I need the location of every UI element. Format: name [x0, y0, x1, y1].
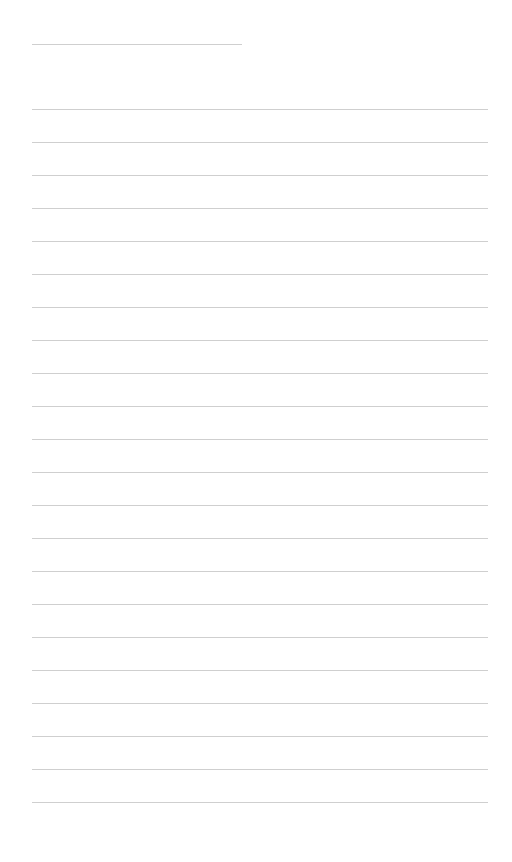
lined-sheet	[0, 0, 512, 862]
ruled-line	[32, 736, 488, 737]
ruled-line	[32, 571, 488, 572]
ruled-line	[32, 769, 488, 770]
ruled-line	[32, 241, 488, 242]
title-line	[32, 44, 242, 45]
ruled-line	[32, 175, 488, 176]
ruled-line	[32, 439, 488, 440]
ruled-line	[32, 538, 488, 539]
ruled-line	[32, 307, 488, 308]
ruled-line	[32, 406, 488, 407]
ruled-line	[32, 142, 488, 143]
ruled-line	[32, 109, 488, 110]
ruled-line	[32, 472, 488, 473]
ruled-line	[32, 373, 488, 374]
ruled-line	[32, 604, 488, 605]
ruled-line	[32, 505, 488, 506]
ruled-line	[32, 802, 488, 803]
ruled-line	[32, 340, 488, 341]
ruled-line	[32, 274, 488, 275]
ruled-line	[32, 703, 488, 704]
ruled-line	[32, 670, 488, 671]
ruled-line	[32, 208, 488, 209]
ruled-line	[32, 637, 488, 638]
